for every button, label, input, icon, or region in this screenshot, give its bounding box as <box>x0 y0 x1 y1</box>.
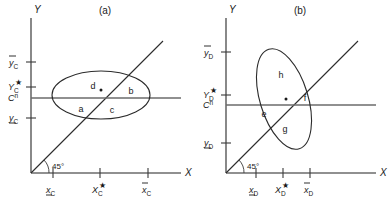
panel-a-ytick-label-ybar: yC <box>8 56 19 70</box>
figure-container: (a) Y X 45° yC YC ★ <box>0 0 390 206</box>
panel-a-angle-arc <box>44 160 49 173</box>
panel-b-center-point <box>285 98 288 101</box>
panel-a-region-d: d <box>90 81 95 91</box>
panel-b-region-g: g <box>282 124 287 134</box>
panel-a-x-axis-label: X <box>184 167 192 178</box>
panel-b-ystar-asterisk: ★ <box>210 86 217 95</box>
panel-b-angle-label: 45° <box>247 162 259 171</box>
panel-b-x-axis-label: X <box>379 167 387 178</box>
panel-a: (a) Y X 45° yC YC ★ <box>0 0 195 206</box>
panel-b-xtick-label-xstar: XD ★ <box>274 181 289 197</box>
panel-b-title: (b) <box>294 5 306 16</box>
panel-a-xtick-label-xunder: xC <box>45 185 56 197</box>
panel-b-xstar-sub: D <box>281 190 286 197</box>
svg-text:yC: yC <box>8 58 19 70</box>
panel-a-y-axis-label: Y <box>34 4 42 15</box>
panel-a-ystar-asterisk: ★ <box>15 78 22 87</box>
svg-text:xC: xC <box>141 185 152 197</box>
panel-b-region-e: e <box>261 109 266 119</box>
panel-a-xtick-label-xstar: XC ★ <box>91 181 106 197</box>
panel-a-ybar-sub: C <box>14 63 19 70</box>
panel-b-xtick-label-xbar: xD <box>303 183 314 197</box>
svg-text:xD: xD <box>303 185 314 197</box>
panel-a-xtick-label-xbar: xC <box>141 183 152 197</box>
panel-b-y-axis-label: Y <box>229 4 237 15</box>
panel-a-ellipse <box>52 71 150 119</box>
panel-a-region-c: c <box>110 105 115 115</box>
panel-b-ytick-label-yunder: yD <box>203 138 214 150</box>
panel-a-title: (a) <box>99 5 111 16</box>
panel-b-xtick-label-xunder: xD <box>248 185 259 197</box>
panel-a-angle-label: 45° <box>52 162 64 171</box>
panel-a-cn-sup: n <box>15 92 19 99</box>
svg-text:Cn: Cn <box>203 99 214 111</box>
panel-b-ytick-label-cn: Cn <box>203 99 214 111</box>
panel-a-center-point <box>100 89 103 92</box>
panel-b-ytick-label-ybar: yD <box>203 46 214 60</box>
panel-b-xstar-asterisk: ★ <box>282 181 289 190</box>
panel-a-xstar-sub: C <box>98 190 103 197</box>
panel-b-angle-arc <box>239 160 244 173</box>
panel-a-region-b: b <box>128 86 133 96</box>
panel-b-45-degree-line <box>226 41 358 173</box>
svg-text:yD: yD <box>203 48 214 60</box>
panel-b-ellipse <box>246 42 322 155</box>
panel-b-cn-sup: n <box>210 99 214 106</box>
panel-b-region-f: f <box>304 93 307 103</box>
panel-b-ybar-sub: D <box>209 53 214 60</box>
panel-a-ytick-label-yunder: yC <box>8 113 19 125</box>
panel-b-region-h: h <box>278 70 283 80</box>
panel-b: (b) Y X 45° yD YD ★ <box>195 0 390 206</box>
panel-a-xstar-asterisk: ★ <box>99 181 106 190</box>
panel-a-xbar-sub: C <box>147 190 152 197</box>
panel-a-region-a: a <box>78 104 83 114</box>
svg-text:Cn: Cn <box>8 92 19 104</box>
panel-a-ytick-label-cn: Cn <box>8 92 19 104</box>
panel-b-xbar-sub: D <box>309 190 314 197</box>
